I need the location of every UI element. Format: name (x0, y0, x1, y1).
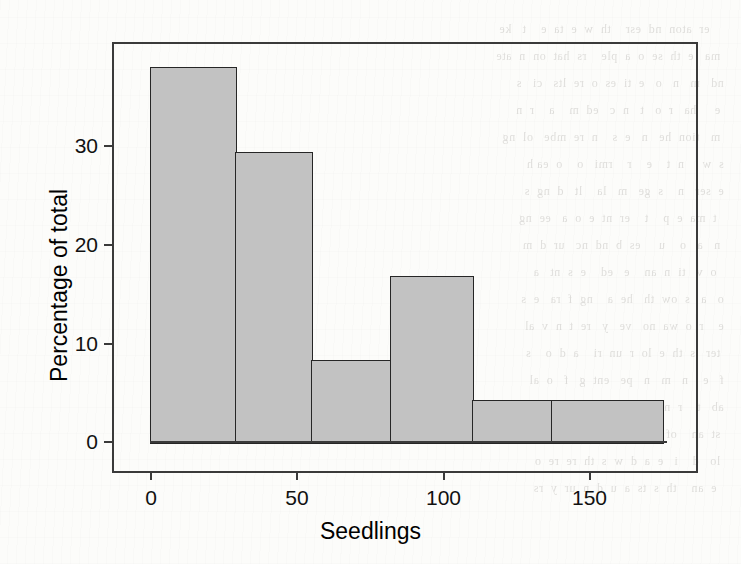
y-tick-label-20: 20 (70, 233, 98, 257)
y-tick-label-0: 0 (84, 430, 98, 454)
histogram-bar-1 (150, 67, 237, 444)
x-tick-mark-0 (150, 471, 152, 480)
histogram-bar-4 (390, 276, 474, 444)
plot-frame-left (112, 42, 114, 473)
y-axis-title: Percentage of total (46, 189, 73, 382)
y-tick-label-30: 30 (70, 134, 98, 158)
x-axis-title: Seedlings (0, 518, 741, 545)
y-tick-mark-0 (104, 441, 113, 443)
y-tick-label-10: 10 (70, 332, 98, 356)
y-tick-mark-30 (104, 145, 113, 147)
histogram-chart: 0 10 20 30 0 50 100 150 Percentage of to… (0, 0, 741, 564)
x-tick-label-150: 150 (563, 486, 616, 510)
x-tick-label-100: 100 (417, 486, 470, 510)
scanned-page: er aton nd esr th w e ta e t ke ma e th … (0, 0, 741, 564)
x-tick-label-0: 0 (131, 486, 171, 510)
histogram-bar-2 (235, 152, 313, 444)
histogram-bar-6 (551, 400, 664, 444)
plot-frame-bottom (112, 471, 698, 473)
plot-frame-right (696, 42, 698, 473)
histogram-bar-3 (311, 360, 392, 444)
y-tick-mark-20 (104, 244, 113, 246)
plot-frame-top (112, 42, 698, 44)
x-tick-mark-150 (589, 471, 591, 480)
y-tick-mark-10 (104, 343, 113, 345)
x-axis-baseline (150, 441, 667, 443)
x-tick-mark-100 (443, 471, 445, 480)
histogram-bar-5 (472, 400, 553, 444)
x-tick-label-50: 50 (277, 486, 317, 510)
x-tick-mark-50 (296, 471, 298, 480)
